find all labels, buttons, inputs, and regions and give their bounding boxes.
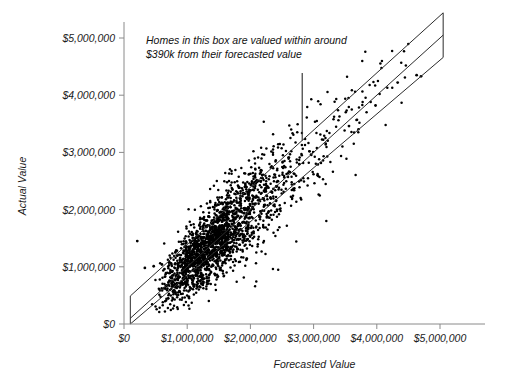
- data-point: [201, 280, 204, 283]
- data-point: [239, 203, 242, 206]
- scatter-chart: $0$1,000,000$2,000,000$3,000,000$4,000,0…: [0, 0, 520, 384]
- data-point: [249, 244, 252, 247]
- data-point: [197, 272, 200, 275]
- data-point: [268, 175, 271, 178]
- data-point: [346, 75, 349, 78]
- data-point: [174, 251, 177, 254]
- data-point: [250, 166, 253, 169]
- data-point: [159, 278, 162, 281]
- data-point: [291, 132, 294, 135]
- scatter-points-layer: [136, 43, 423, 314]
- data-point: [280, 147, 283, 150]
- data-point: [273, 173, 276, 176]
- data-point: [164, 310, 167, 313]
- data-point: [295, 158, 298, 161]
- data-point: [310, 98, 313, 101]
- data-point: [230, 258, 233, 261]
- data-point: [226, 209, 229, 212]
- data-point: [277, 180, 280, 183]
- data-point: [233, 264, 236, 267]
- data-point: [197, 260, 200, 263]
- data-point: [200, 241, 203, 244]
- data-point: [232, 261, 235, 264]
- data-point: [220, 229, 223, 232]
- data-point: [158, 307, 161, 310]
- data-point: [214, 202, 217, 205]
- data-point: [265, 177, 268, 180]
- data-point: [209, 229, 212, 232]
- data-point: [365, 111, 368, 114]
- data-point: [290, 175, 293, 178]
- data-point: [197, 282, 200, 285]
- data-point: [263, 199, 266, 202]
- data-point: [238, 243, 241, 246]
- data-point: [239, 234, 242, 237]
- data-point: [259, 172, 262, 175]
- data-point: [203, 277, 206, 280]
- data-point: [403, 50, 406, 53]
- data-point: [235, 245, 238, 248]
- data-point: [357, 131, 360, 134]
- data-point: [253, 211, 256, 214]
- data-point: [228, 172, 231, 175]
- data-point: [268, 178, 271, 181]
- data-point: [286, 225, 289, 228]
- data-point: [205, 244, 208, 247]
- data-point: [221, 238, 224, 241]
- data-point: [265, 184, 268, 187]
- data-point: [211, 250, 214, 253]
- data-point: [278, 226, 281, 229]
- data-point: [250, 225, 253, 228]
- data-point: [136, 240, 139, 243]
- data-point: [233, 242, 236, 245]
- data-point: [161, 282, 164, 285]
- data-point: [254, 174, 256, 177]
- data-point: [185, 301, 188, 304]
- data-point: [245, 186, 248, 189]
- data-point: [257, 238, 260, 241]
- data-point: [225, 214, 228, 217]
- data-point: [185, 256, 188, 259]
- data-point: [235, 216, 238, 219]
- data-point: [187, 304, 190, 307]
- data-point: [183, 237, 186, 240]
- data-point: [174, 267, 177, 270]
- data-point: [318, 158, 321, 161]
- data-point: [322, 178, 325, 181]
- data-point: [405, 64, 408, 67]
- data-point: [266, 228, 269, 231]
- data-point: [289, 137, 292, 140]
- data-point: [337, 119, 340, 122]
- data-point: [182, 240, 185, 243]
- x-tick-label: $5,000,000: [413, 332, 467, 344]
- data-point: [169, 303, 172, 306]
- data-point: [353, 142, 356, 145]
- data-point: [230, 232, 233, 235]
- data-point: [212, 255, 215, 258]
- data-point: [215, 246, 218, 249]
- data-point: [185, 225, 188, 228]
- data-point: [217, 231, 220, 234]
- data-point: [232, 251, 235, 254]
- data-point: [226, 196, 229, 199]
- data-point: [333, 100, 336, 103]
- data-point: [244, 209, 247, 212]
- x-tick-label: $1,000,000: [160, 332, 214, 344]
- data-point: [228, 220, 231, 223]
- data-point: [228, 210, 231, 213]
- data-point: [209, 201, 212, 204]
- data-point: [186, 249, 189, 252]
- data-point: [260, 157, 263, 160]
- data-point: [282, 154, 285, 157]
- data-point: [222, 218, 225, 221]
- data-point: [248, 207, 251, 210]
- data-point: [254, 168, 256, 171]
- y-tick-label: $0: [102, 318, 115, 330]
- data-point: [204, 268, 207, 271]
- data-point: [276, 210, 279, 213]
- data-point: [180, 240, 183, 243]
- data-point: [255, 196, 257, 199]
- data-point: [335, 98, 338, 101]
- data-point: [384, 124, 387, 127]
- data-point: [211, 259, 214, 262]
